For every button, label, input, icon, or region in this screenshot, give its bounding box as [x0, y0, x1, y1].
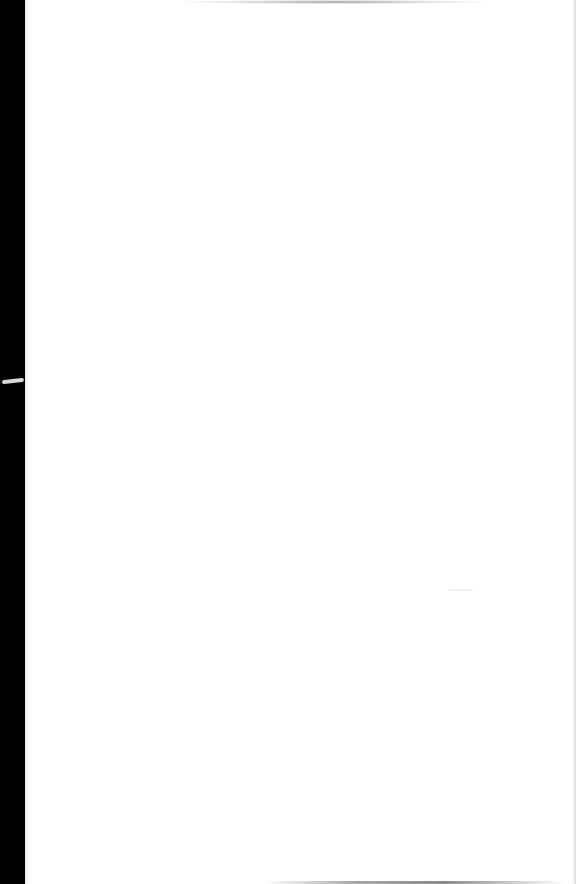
paper-left-edge — [25, 0, 29, 884]
blank-paper-page — [25, 0, 576, 884]
scanned-page-background — [0, 0, 576, 884]
paper-tear-mark — [2, 378, 24, 384]
top-scan-shadow — [185, 0, 485, 4]
scan-speck — [449, 589, 473, 591]
